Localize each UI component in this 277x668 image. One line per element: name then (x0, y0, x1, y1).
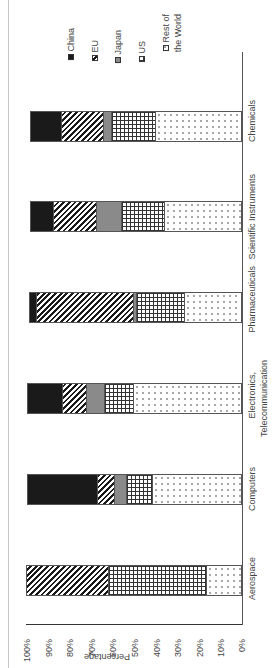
segment-us (127, 475, 153, 504)
segment-rest (156, 112, 241, 141)
tick-label: 90% (44, 639, 54, 657)
bar-electronics-telecommunication (27, 383, 242, 414)
value-axis-line (26, 624, 242, 625)
category-label-electronics: Electronics, (247, 372, 258, 419)
legend-label: EU (90, 40, 100, 53)
category-label-aerospace: Aerospace (247, 557, 258, 600)
tick-label: 50% (130, 639, 140, 657)
bar-pharmaceuticals (29, 292, 242, 323)
segment-us (137, 293, 185, 322)
legend-label: US (137, 41, 147, 54)
eu-swatch-icon (92, 55, 98, 61)
legend-item-eu: EU (90, 40, 101, 63)
legend-item-japan: Japan (113, 30, 124, 65)
legend-label: China (66, 28, 76, 52)
legend-label: the World (173, 14, 183, 52)
chart-frame-line (8, 0, 9, 668)
tick-label: 20% (195, 639, 205, 657)
category-label-pharmaceuticals: Pharmaceuticals (247, 266, 258, 333)
segment-us (105, 384, 134, 413)
category-label-scientific-instruments: Scientific Instruments (247, 174, 258, 260)
value-axis-title: Percentage (84, 652, 130, 662)
tick-label: 10% (216, 639, 226, 657)
category-label-computers: Computers (247, 467, 258, 511)
segment-us (109, 566, 207, 595)
category-axis-line (242, 52, 243, 625)
china-swatch-icon (68, 54, 74, 60)
bar-aerospace (26, 565, 242, 596)
category-label-chemicals: Chemicals (247, 100, 258, 142)
legend-item-rest: Rest of (161, 14, 172, 53)
segment-rest (165, 202, 241, 231)
tick-label: 30% (173, 639, 183, 657)
rest-swatch-icon (163, 45, 169, 51)
segment-eu (98, 475, 115, 504)
legend-label: Rest of (161, 14, 171, 43)
legend-item-china: China (66, 28, 77, 62)
segment-eu (63, 384, 87, 413)
segment-japan (87, 384, 105, 413)
segment-eu (54, 202, 97, 231)
segment-eu (27, 566, 109, 595)
segment-rest (185, 293, 241, 322)
legend-label: Japan (113, 30, 123, 55)
segment-rest (134, 384, 241, 413)
segment-eu (37, 293, 134, 322)
segment-japan (104, 112, 112, 141)
segment-eu (62, 112, 104, 141)
legend-item-rest-line2: the World (173, 14, 184, 52)
legend-item-us: US (137, 41, 148, 64)
bar-chemicals (30, 111, 242, 142)
tick-label: 100% (22, 639, 32, 662)
segment-rest (153, 475, 241, 504)
segment-china (31, 112, 62, 141)
segment-china (30, 293, 37, 322)
segment-rest (207, 566, 241, 595)
japan-swatch-icon (115, 57, 121, 63)
segment-us (122, 202, 165, 231)
tick-label: 40% (152, 639, 162, 657)
segment-china (28, 384, 63, 413)
segment-japan (115, 475, 127, 504)
segment-china (31, 202, 54, 231)
segment-us (112, 112, 156, 141)
segment-china (28, 475, 98, 504)
category-label-telecommunication: Telecommunication (259, 360, 270, 437)
tick-label: 80% (65, 639, 75, 657)
segment-japan (97, 202, 122, 231)
bar-scientific-instruments (30, 201, 242, 232)
tick-label: 0% (237, 639, 247, 652)
us-swatch-icon (139, 56, 145, 62)
bar-computers (27, 474, 242, 505)
